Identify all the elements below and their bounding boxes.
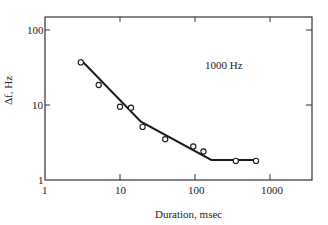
x-tick-label-10: 10 — [115, 184, 126, 196]
x-axis-title: Duration, msec — [155, 208, 222, 220]
fit-line — [81, 60, 256, 160]
x-tick-label-1: 1 — [42, 184, 48, 196]
y-axis-title: Δf, Hz — [2, 76, 14, 105]
data-point-marker — [191, 144, 196, 149]
data-point-marker — [163, 137, 168, 142]
data-points — [78, 60, 258, 164]
data-point-marker — [96, 82, 101, 87]
plot-frame — [45, 17, 312, 180]
data-point-marker — [140, 124, 145, 129]
axis-ticks — [45, 17, 312, 180]
x-tick-label-1000: 1000 — [261, 184, 283, 196]
y-tick-label-10: 10 — [32, 99, 43, 111]
y-tick-label-100: 100 — [27, 24, 44, 36]
x-tick-label-100: 100 — [188, 184, 205, 196]
frequency-annotation: 1000 Hz — [205, 59, 243, 71]
data-point-marker — [253, 158, 258, 163]
data-point-marker — [233, 158, 238, 163]
data-point-marker — [117, 104, 122, 109]
data-point-marker — [128, 105, 133, 110]
data-point-marker — [201, 149, 206, 154]
data-point-marker — [78, 60, 83, 65]
